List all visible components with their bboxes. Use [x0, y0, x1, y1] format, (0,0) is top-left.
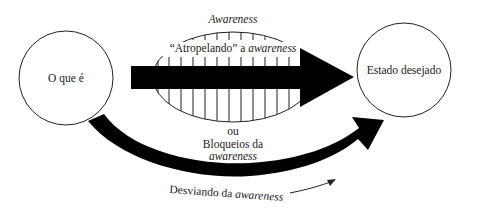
direct-path-label: “Atropelando” a awareness	[170, 42, 297, 55]
deflection-emph: awareness	[235, 188, 284, 203]
alternative-connector: ou	[203, 125, 263, 138]
alternative-path-label: ou Bloqueios da awareness	[203, 125, 263, 163]
awareness-diagram	[0, 0, 482, 209]
start-node-label: O que é	[48, 72, 84, 85]
direct-path-emph: awareness	[248, 42, 296, 54]
awareness-title: Awareness	[209, 13, 258, 26]
alternative-line2: awareness	[203, 150, 263, 163]
alternative-line1: Bloqueios da	[203, 138, 263, 151]
direct-path-prefix: “Atropelando” a	[170, 42, 246, 54]
end-node-label: Estado desejado	[367, 64, 441, 77]
deflection-arrow	[290, 179, 336, 193]
